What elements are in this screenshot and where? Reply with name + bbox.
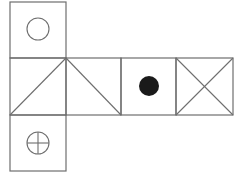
face-top-border bbox=[10, 2, 66, 58]
face-bottom bbox=[10, 115, 66, 171]
diagonal-line-icon bbox=[10, 58, 66, 115]
middle-row bbox=[10, 58, 233, 115]
face-row-3 bbox=[121, 58, 176, 115]
cube-net-diagram bbox=[0, 0, 239, 177]
face-row-4 bbox=[176, 58, 233, 115]
hollow-circle-icon bbox=[27, 18, 49, 40]
face-top bbox=[10, 2, 66, 58]
face-row-1 bbox=[10, 58, 66, 115]
filled-circle-icon bbox=[139, 76, 159, 96]
face-row-2 bbox=[66, 58, 121, 115]
diagonal-line-icon bbox=[66, 58, 121, 115]
